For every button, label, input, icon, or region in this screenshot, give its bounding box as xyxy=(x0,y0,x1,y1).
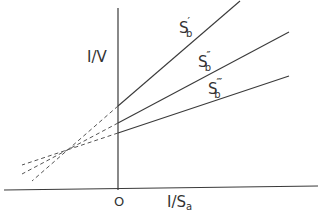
label-sub: b xyxy=(205,62,211,73)
label-s-b-double-prime: S″b xyxy=(198,49,211,73)
label-prime: ″ xyxy=(207,49,211,62)
label-s-b-triple-prime: S‴b xyxy=(208,76,223,100)
x-axis-label-sub: a xyxy=(186,201,192,212)
label-prime: ′ xyxy=(188,15,191,28)
origin-label: O xyxy=(114,194,124,209)
x-axis-label: I/Sa xyxy=(167,193,192,212)
dashed-extension-s-b-triple-prime xyxy=(22,133,118,165)
x-axis xyxy=(4,186,318,190)
line-s-b-double-prime xyxy=(118,32,289,123)
label-sub: b xyxy=(186,28,192,39)
x-axis-label-main: I/S xyxy=(167,193,186,211)
label-prime: ‴ xyxy=(217,76,223,89)
lineweaver-burk-diagram: I/V O I/Sa S′b S″b S‴b xyxy=(0,0,319,221)
y-axis-label: I/V xyxy=(87,48,107,66)
dashed-extension-s-b-prime xyxy=(32,106,118,181)
label-sub: b xyxy=(214,89,220,100)
label-s-b-prime: S′b xyxy=(179,15,192,39)
